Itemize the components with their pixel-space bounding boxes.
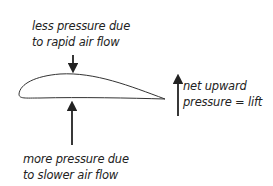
lift-label-line2: pressure = lift bbox=[183, 94, 262, 110]
lift-label: net upward pressure = lift bbox=[183, 78, 262, 110]
bottom-label: more pressure due to slower air flow bbox=[23, 151, 129, 183]
bottom-label-line2: to slower air flow bbox=[23, 167, 129, 183]
lift-label-line1: net upward bbox=[183, 78, 262, 94]
airfoil-shape bbox=[19, 74, 165, 99]
top-label-line1: less pressure due bbox=[32, 18, 130, 34]
top-label-line2: to rapid air flow bbox=[32, 34, 130, 50]
top-label: less pressure due to rapid air flow bbox=[32, 18, 130, 50]
bottom-label-line1: more pressure due bbox=[23, 151, 129, 167]
